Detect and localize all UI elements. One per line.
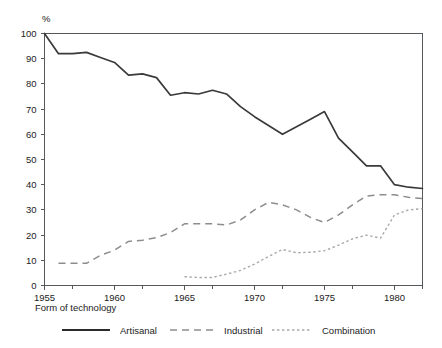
series-line-artisanal [45, 34, 423, 189]
line-chart-figure: 0102030405060708090100 19551960196519701… [0, 0, 442, 348]
y-tick-label: 80 [26, 78, 37, 89]
y-tick-label: 100 [21, 28, 37, 39]
y-tick-label: 10 [26, 255, 37, 266]
x-tick-label: 1970 [244, 292, 265, 303]
legend-title: Form of technology [35, 302, 117, 313]
legend-label-artisanal: Artisanal [120, 325, 157, 336]
legend-label-combination: Combination [322, 325, 375, 336]
chart-legend: Artisanal Industrial Combination [62, 325, 375, 336]
x-tick-label: 1955 [34, 292, 55, 303]
y-tick-label: 50 [26, 154, 37, 165]
chart-svg: 0102030405060708090100 19551960196519701… [0, 0, 442, 348]
y-axis-unit-label: % [42, 13, 51, 24]
y-tick-label: 0 [31, 280, 36, 291]
series-line-industrial [59, 195, 423, 264]
y-tick-label: 90 [26, 53, 37, 64]
legend-label-industrial: Industrial [224, 325, 263, 336]
y-tick-label: 20 [26, 230, 37, 241]
y-tick-label: 40 [26, 179, 37, 190]
y-axis-tick-labels: 0102030405060708090100 [21, 28, 37, 291]
axis-tick-marks [41, 34, 423, 290]
x-tick-label: 1965 [174, 292, 195, 303]
x-tick-label: 1980 [384, 292, 405, 303]
x-tick-label: 1975 [314, 292, 335, 303]
y-tick-label: 60 [26, 129, 37, 140]
x-axis-tick-labels: 195519601965197019751980 [34, 292, 405, 303]
y-tick-label: 70 [26, 104, 37, 115]
x-tick-label: 1960 [104, 292, 125, 303]
series-line-combination [185, 209, 423, 278]
y-tick-label: 30 [26, 204, 37, 215]
